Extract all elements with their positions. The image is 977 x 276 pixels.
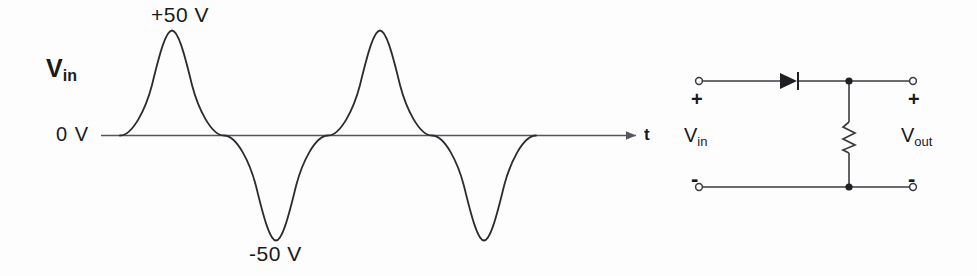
junction-dot-bottom (845, 183, 852, 190)
circuit-output-label-main: V (901, 124, 914, 146)
figure-canvas: Vin +50 V -50 V 0 V t Vin Vout + - + - (0, 0, 977, 276)
peak-voltage-label: +50 V (151, 4, 209, 25)
waveform-signal-label: Vin (46, 56, 77, 84)
circuit-output-label: Vout (901, 125, 932, 148)
waveform-signal-label-subscript: in (63, 67, 77, 84)
output-polarity-positive: + (908, 89, 920, 109)
circuit-input-label-main: V (684, 124, 697, 146)
terminal-output-positive[interactable] (910, 78, 917, 85)
circuit-output-label-subscript: out (914, 134, 932, 149)
diode-icon (780, 73, 797, 89)
input-polarity-negative: - (691, 168, 698, 190)
trough-voltage-label: -50 V (249, 243, 302, 264)
rectifier-circuit (696, 72, 917, 191)
waveform-plot (101, 31, 636, 241)
time-axis (101, 131, 636, 140)
junction-dot-top (845, 77, 852, 84)
input-polarity-positive: + (691, 89, 703, 109)
resistor-icon (843, 122, 855, 153)
circuit-input-label: Vin (684, 125, 707, 148)
time-axis-arrowhead (626, 131, 636, 140)
terminal-input-positive[interactable] (696, 78, 703, 85)
waveform-signal-label-main: V (46, 54, 63, 82)
circuit-input-label-subscript: in (697, 134, 707, 149)
time-axis-label: t (644, 126, 650, 143)
zero-voltage-label: 0 V (56, 124, 89, 144)
figure-vector-layer (0, 0, 977, 276)
output-polarity-negative: - (908, 168, 915, 190)
